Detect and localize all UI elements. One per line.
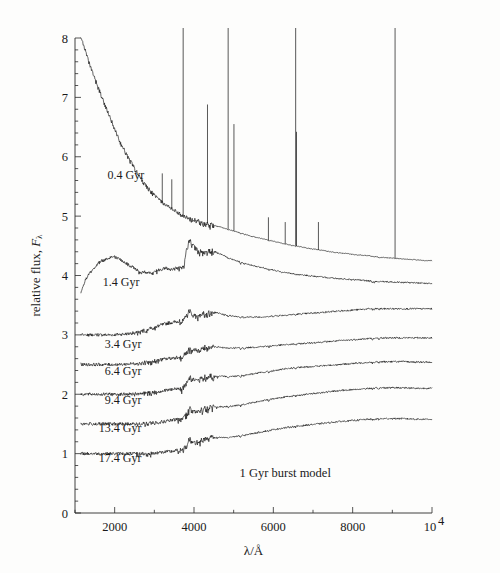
annotations: 1 Gyr burst model — [240, 466, 332, 480]
y-axis-title: relative flux, Fλ — [28, 234, 44, 317]
y-tick-label: 3 — [62, 328, 68, 342]
x-axis-title: λ/Å — [244, 543, 264, 558]
svg-text:4: 4 — [438, 514, 445, 528]
spectrum-3-4-gyr: 3.4 Gyr — [81, 308, 432, 351]
spectral-evolution-figure: 0123456782000400060008000104λ/Årelative … — [0, 0, 500, 573]
svg-text:10: 10 — [424, 520, 437, 534]
series-label-0-4-gyr: 0.4 Gyr — [108, 168, 145, 182]
y-tick-label: 6 — [62, 150, 68, 164]
spectra-group: 0.4 Gyr1.4 Gyr3.4 Gyr6.4 Gyr9.4 Gyr13.4 … — [81, 25, 432, 465]
y-tick-label: 8 — [62, 32, 68, 46]
y-axis-ticks: 012345678 — [62, 32, 81, 521]
y-tick-label: 0 — [62, 507, 68, 521]
x-axis-ticks: 2000400060008000104 — [75, 507, 445, 534]
y-tick-label: 7 — [62, 91, 68, 105]
y-tick-label: 4 — [62, 269, 69, 283]
series-label-3-4-gyr: 3.4 Gyr — [105, 337, 142, 351]
series-label-9-4-gyr: 9.4 Gyr — [105, 393, 142, 407]
series-label-1-4-gyr: 1.4 Gyr — [103, 275, 140, 289]
x-tick-label: 4000 — [182, 520, 207, 534]
x-tick-label: 2000 — [102, 520, 127, 534]
x-tick-label: 6000 — [261, 520, 286, 534]
y-tick-label: 2 — [62, 388, 68, 402]
spectrum-0-4-gyr: 0.4 Gyr — [81, 25, 432, 261]
series-label-13-4-gyr: 13.4 Gyr — [99, 421, 142, 435]
top-mask — [0, 0, 500, 28]
series-label-6-4-gyr: 6.4 Gyr — [105, 364, 142, 378]
chart-canvas: 0123456782000400060008000104λ/Årelative … — [0, 0, 500, 573]
x-tick-label: 104 — [424, 514, 445, 534]
y-tick-label: 5 — [62, 210, 68, 224]
x-tick-label: 8000 — [340, 520, 365, 534]
spectrum-1-4-gyr: 1.4 Gyr — [81, 240, 432, 293]
series-label-17-4-gyr: 17.4 Gyr — [99, 451, 142, 465]
y-tick-label: 1 — [62, 447, 68, 461]
model-annotation: 1 Gyr burst model — [240, 466, 332, 480]
